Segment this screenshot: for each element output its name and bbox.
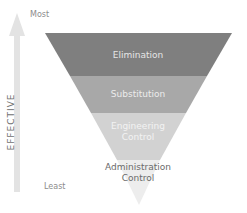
administration-label-line2: Control [78, 173, 198, 184]
elimination-label: Elimination [78, 50, 198, 61]
administration-label: Administration Control [78, 162, 198, 184]
least-label: Least [44, 182, 65, 191]
administration-label-line1: Administration [78, 162, 198, 173]
engineering-label-line1: Engineering [78, 121, 198, 132]
engineering-label: Engineering Control [78, 121, 198, 143]
substitution-label: Substitution [78, 89, 198, 100]
effective-label: EFFECTIVE [6, 93, 16, 150]
engineering-label-line2: Control [78, 132, 198, 143]
most-label: Most [30, 10, 49, 19]
